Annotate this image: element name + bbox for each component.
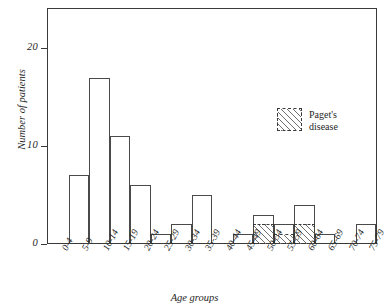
y-tick-label: 0: [32, 237, 38, 248]
bar-group: [212, 9, 233, 244]
bar-group: [335, 9, 356, 244]
y-tick-label: 20: [27, 41, 38, 52]
bar-group: [253, 9, 274, 244]
y-tick-label: 10: [27, 139, 38, 150]
bar-group: [110, 9, 131, 244]
y-tick-mark: [41, 244, 47, 245]
y-axis: 0 10 20 Number of patients: [0, 0, 47, 244]
legend-swatch-pagets-disease: [277, 108, 302, 131]
bar-group: [233, 9, 254, 244]
bar-group: [171, 9, 192, 244]
legend-label-line-2: disease: [309, 121, 338, 133]
legend-label-pagets-disease: Paget's disease: [309, 108, 338, 133]
bar-total: [89, 78, 110, 244]
bar-group: [89, 9, 110, 244]
legend-label-line-1: Paget's: [309, 109, 338, 121]
bar-total: [69, 175, 90, 244]
bar-group: [69, 9, 90, 244]
legend: Paget's disease: [277, 108, 338, 133]
bar-group: [48, 9, 69, 244]
bar-group: [192, 9, 213, 244]
y-axis-title: Number of patients: [16, 45, 27, 175]
x-axis-title: Age groups: [0, 292, 389, 303]
histogram-figure: 0 10 20 Number of patients Paget's disea…: [0, 0, 389, 308]
bar-group: [130, 9, 151, 244]
bar-group: [356, 9, 377, 244]
bar-group: [151, 9, 172, 244]
